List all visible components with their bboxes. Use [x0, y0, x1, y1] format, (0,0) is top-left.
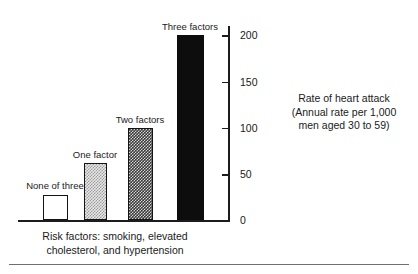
footer-divider [9, 264, 409, 265]
value-axis-tick-100 [222, 128, 230, 130]
value-axis-caption-line-1: Rate of heart attack [276, 92, 412, 106]
value-axis-tick-label-100: 100 [240, 122, 258, 133]
bar-one-factor [84, 163, 107, 220]
value-axis-caption-line-2: (Annual rate per 1,000 [276, 106, 412, 120]
category-axis-caption: Risk factors: smoking, elevated choleste… [12, 230, 218, 257]
bar-label-none-of-three: None of three [26, 180, 84, 191]
category-axis-caption-line-1: Risk factors: smoking, elevated [12, 230, 218, 244]
value-axis-tick-label-150: 150 [240, 76, 258, 87]
value-axis-tick-0 [222, 220, 230, 222]
category-axis-line [18, 220, 222, 222]
bar-three-factors [177, 35, 204, 220]
category-axis-caption-line-2: cholesterol, and hypertension [12, 244, 218, 258]
value-axis-caption: Rate of heart attack (Annual rate per 1,… [276, 92, 412, 133]
plot-area: None of three One factor Two factors Thr… [18, 26, 222, 222]
chart-figure: None of three One factor Two factors Thr… [0, 0, 418, 274]
value-axis-tick-150 [222, 82, 230, 84]
value-axis: 200150100500 [228, 26, 230, 222]
bar-two-factors [128, 128, 153, 221]
bar-label-three-factors: Three factors [162, 21, 218, 32]
bar-none-of-three [43, 195, 68, 221]
value-axis-tick-50 [222, 174, 230, 176]
bar-label-one-factor: One factor [73, 149, 117, 160]
value-axis-tick-label-50: 50 [240, 169, 252, 180]
value-axis-tick-label-200: 200 [240, 30, 258, 41]
bar-label-two-factors: Two factors [116, 114, 165, 125]
value-axis-tick-label-0: 0 [240, 215, 246, 226]
value-axis-caption-line-3: men aged 30 to 59) [276, 119, 412, 133]
value-axis-tick-200 [222, 35, 230, 37]
